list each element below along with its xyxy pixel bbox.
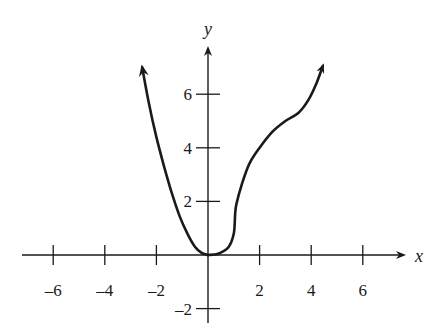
x-tick-label: –4 <box>95 281 114 300</box>
y-tick-label: 4 <box>184 139 193 158</box>
axes <box>22 49 403 323</box>
right-branch-curve <box>208 66 323 255</box>
x-tick-label: –6 <box>44 281 62 300</box>
x-tick-label: 4 <box>307 281 316 300</box>
x-tick-label: 2 <box>255 281 264 300</box>
y-axis-label: y <box>202 19 212 39</box>
x-tick-label: –2 <box>147 281 165 300</box>
y-tick-label: 6 <box>184 85 193 104</box>
x-axis-label: x <box>414 246 423 266</box>
left-branch-curve <box>142 67 208 255</box>
x-tick-label: 6 <box>359 281 368 300</box>
curves <box>142 66 323 255</box>
y-tick-label: –2 <box>174 300 192 319</box>
function-graph: –6–4–2246–2246 x y <box>0 0 445 335</box>
y-tick-label: 2 <box>184 192 193 211</box>
